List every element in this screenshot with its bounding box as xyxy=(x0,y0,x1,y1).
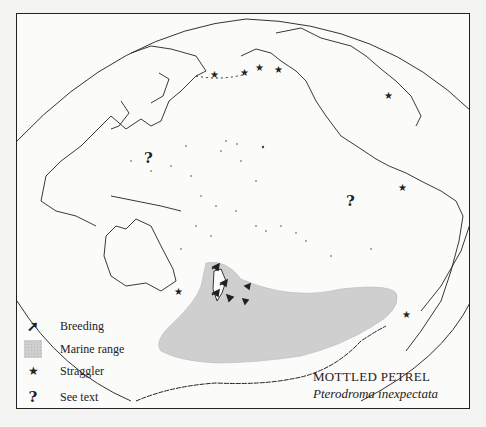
legend-label: Marine range xyxy=(60,342,124,357)
breeding-arrow-icon: ➚ xyxy=(22,318,44,335)
species-scientific-name: Pterodroma inexpectata xyxy=(313,386,438,402)
alaska-coastline xyxy=(241,49,406,173)
star-icon: ★ xyxy=(174,287,183,297)
question-mark-icon: ? xyxy=(144,149,153,167)
marine-range-swatch xyxy=(24,340,42,358)
map-title-block: MOTTLED PETREL Pterodroma inexpectata xyxy=(313,369,438,402)
arctic-canada-coastline xyxy=(276,28,421,126)
globe-outline-top xyxy=(17,19,470,141)
legend-label: Straggler xyxy=(60,364,104,379)
star-icon: ★ xyxy=(384,91,393,101)
legend-item-straggler: ★ Straggler xyxy=(22,364,104,379)
star-icon: ★ xyxy=(22,364,44,379)
pacific-islands xyxy=(130,140,372,257)
south-america-inner-coastline xyxy=(421,221,470,311)
legend-item-see-text: ? See text xyxy=(22,388,98,406)
japan-coastline xyxy=(111,101,129,129)
star-icon: ★ xyxy=(255,63,264,73)
marine-range-area xyxy=(159,262,397,363)
aleutian-islands xyxy=(196,74,246,78)
legend-label: Breeding xyxy=(60,319,104,334)
question-mark-icon: ? xyxy=(346,192,355,210)
legend-item-marine-range: Marine range xyxy=(22,340,124,358)
kamchatka-coastline xyxy=(151,73,169,103)
star-icon: ★ xyxy=(210,70,219,80)
legend-label: See text xyxy=(60,390,98,405)
asia-coastline xyxy=(41,46,206,226)
new-guinea-coastline xyxy=(111,196,181,211)
question-mark-icon: ? xyxy=(22,388,44,406)
star-icon: ★ xyxy=(398,183,407,193)
star-icon: ★ xyxy=(240,68,249,78)
australia-coastline xyxy=(104,219,176,291)
species-common-name: MOTTLED PETREL xyxy=(313,369,438,385)
star-icon: ★ xyxy=(402,310,411,320)
star-icon: ★ xyxy=(274,65,283,75)
legend-item-breeding: ➚ Breeding xyxy=(22,318,104,335)
